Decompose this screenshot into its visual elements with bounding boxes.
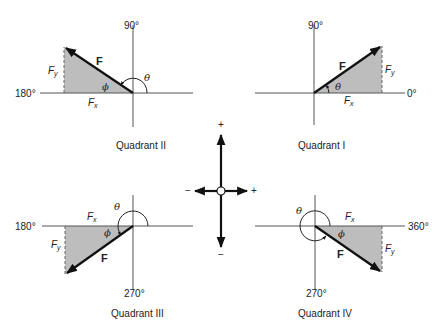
axis-label-side: 360° — [408, 221, 429, 232]
axis-label-side: 180° — [15, 221, 36, 232]
fy-label: Fy — [48, 65, 58, 78]
quadrant-caption: Quadrant I — [298, 140, 345, 151]
sign-right: + — [251, 185, 257, 196]
axis-label-top: 90° — [124, 20, 139, 31]
axis-label-top: 90° — [308, 20, 323, 31]
theta-label: θ — [144, 72, 150, 83]
quadrant-caption: Quadrant II — [116, 140, 166, 151]
quadrant-caption: Quadrant IV — [298, 308, 352, 319]
fx-label: Fx — [87, 211, 97, 223]
fx-label: Fx — [345, 211, 355, 223]
fy-label: Fy — [385, 64, 395, 77]
sign-convention-compass: + − − + — [185, 119, 257, 260]
force-label: F — [339, 60, 346, 72]
phi-label: ϕ — [338, 228, 345, 239]
quadrant-caption: Quadrant III — [111, 308, 164, 319]
phi-label: ϕ — [104, 227, 111, 238]
quadrant-i-panel: 90° 0° F θ Fy Fx Quadrant I — [255, 20, 417, 151]
theta-label: θ — [114, 201, 120, 212]
theta-label: θ — [335, 81, 341, 92]
axis-label-side: 180° — [15, 88, 36, 99]
sign-down: − — [218, 249, 224, 260]
theta-label: θ — [296, 205, 302, 216]
fx-label: Fx — [344, 95, 354, 107]
quadrant-ii-panel: 90° 180° F θ ϕ Fy Fx Quadrant II — [15, 20, 193, 151]
quadrant-iv-panel: 360° 270° F θ ϕ Fy Fx Quadrant IV — [255, 195, 429, 319]
sign-left: − — [185, 185, 191, 196]
sign-up: + — [218, 119, 224, 130]
force-label: F — [337, 248, 344, 260]
force-label: F — [101, 252, 108, 264]
fy-label: Fy — [51, 239, 61, 252]
force-label: F — [96, 55, 103, 67]
phi-label: ϕ — [102, 81, 109, 92]
force-quadrant-diagram: 90° 180° F θ ϕ Fy Fx Quadrant II 90° 0° … — [0, 0, 442, 331]
origin-circle — [217, 187, 225, 195]
axis-label-bottom: 270° — [306, 288, 327, 299]
axis-label-side: 0° — [407, 88, 417, 99]
fy-label: Fy — [385, 243, 395, 256]
axis-label-bottom: 270° — [124, 288, 145, 299]
fx-label: Fx — [88, 97, 98, 109]
quadrant-iii-panel: 180° 270° F θ ϕ Fy Fx Quadrant III — [15, 195, 193, 319]
